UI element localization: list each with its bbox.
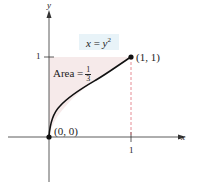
y-axis-arrow-icon (47, 10, 52, 18)
x-tick-label: 1 (129, 146, 134, 155)
point-1-1 (128, 54, 133, 59)
graph (0, 0, 197, 190)
area-label: Area =13 (53, 66, 91, 83)
equation-label: x = y2 (86, 37, 111, 49)
y-tick-label: 1 (36, 52, 41, 61)
fraction-numerator: 1 (86, 66, 90, 74)
area-fraction: 13 (85, 66, 91, 83)
fraction-denominator: 3 (86, 75, 90, 83)
point-origin (46, 134, 51, 139)
eq-exponent: 2 (108, 36, 112, 44)
x-axis-label: x (181, 133, 185, 142)
point-1-1-label: (1, 1) (136, 52, 160, 63)
area-text: Area = (53, 67, 83, 79)
y-axis-label: y (47, 1, 51, 10)
eq-sign: = (91, 37, 103, 49)
origin-label: (0, 0) (54, 126, 78, 137)
